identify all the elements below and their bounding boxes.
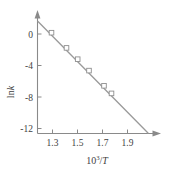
data-point-marker [49,30,54,35]
data-point-marker [109,91,114,96]
x-tick-label: 1.7 [97,138,109,148]
x-tick-label: 1.3 [47,138,59,148]
y-tick-labels: 0 -4 -8 -12 [20,30,33,135]
x-axis-title: 103/T [86,154,109,166]
y-tick-marks [38,34,42,129]
regression-fit-line [38,22,148,134]
data-point-marker [87,68,92,73]
y-axis-arrow-icon [35,10,41,19]
y-axis-title: lnk [5,85,16,98]
axes-group [35,10,161,136]
x-axis-title-variable: T [102,155,109,166]
chart-canvas: 1.3 1.5 1.7 1.9 0 -4 -8 -12 [0,0,180,180]
x-tick-labels: 1.3 1.5 1.7 1.9 [47,138,134,148]
y-tick-label: -12 [20,124,33,134]
y-tick-label: -4 [25,61,33,71]
y-tick-label: 0 [28,30,33,40]
x-axis-arrow-icon [153,131,162,137]
data-point-marker [64,46,69,51]
x-axis-title-base: 10 [86,155,96,166]
y-axis-title-prefix: ln [5,90,16,98]
data-point-marker [75,57,80,62]
data-point-marker [102,84,107,89]
x-tick-marks [53,130,128,134]
data-point-markers [49,30,114,95]
arrhenius-plot-figure: 1.3 1.5 1.7 1.9 0 -4 -8 -12 [0,0,180,180]
x-tick-label: 1.9 [122,138,134,148]
x-tick-label: 1.5 [72,138,84,148]
y-axis-title-variable: k [5,85,16,90]
y-tick-label: -8 [25,93,33,103]
